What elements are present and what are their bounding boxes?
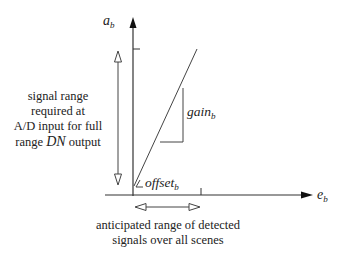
signal-range-line-4-post: output: [66, 135, 101, 149]
offset-leader-icon: [136, 180, 143, 187]
offset-subscript: b: [174, 182, 179, 192]
y-axis: [130, 17, 141, 196]
gain-subscript: b: [211, 111, 216, 121]
signal-range-line-2: required at: [0, 104, 116, 119]
anticipated-range-double-arrow-icon: [135, 204, 200, 211]
x-axis: [105, 188, 313, 199]
signal-range-line-1: signal range: [0, 89, 116, 104]
offset-symbol: offset: [145, 175, 174, 190]
y-axis-label: ab: [103, 13, 115, 33]
signal-range-annotation: signal range required at A/D input for f…: [0, 89, 116, 150]
gain-label: gainb: [187, 104, 216, 124]
signal-range-line-3: A/D input for full: [0, 119, 116, 134]
x-axis-label: eb: [317, 187, 328, 207]
gain-slope-marker: [160, 88, 183, 142]
anticipated-range-line-2: signals over all scenes: [88, 233, 248, 248]
x-axis-arrowhead-icon: [301, 192, 313, 199]
anticipated-range-annotation: anticipated range of detected signals ov…: [88, 218, 248, 248]
x-axis-subscript: b: [323, 194, 328, 204]
y-axis-subscript: b: [110, 20, 115, 30]
offset-label: offsetb: [145, 175, 179, 195]
dn-italic: DN: [46, 134, 65, 149]
y-axis-arrowhead-icon: [130, 17, 137, 28]
gain-symbol: gain: [187, 104, 211, 119]
anticipated-range-line-1: anticipated range of detected: [88, 218, 248, 233]
signal-range-line-4-pre: range: [15, 135, 46, 149]
signal-range-line-4: range DN output: [0, 134, 116, 150]
y-axis-symbol: a: [103, 13, 110, 28]
